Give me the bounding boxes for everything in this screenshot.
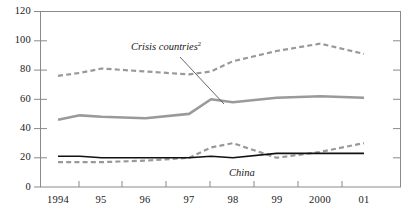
- series-line-1: [58, 96, 364, 119]
- x-axis-label-99: 99: [255, 194, 299, 205]
- series-line-0: [58, 44, 364, 76]
- y-axis-label-120: 120: [0, 5, 31, 16]
- y-axis-ticks-right: [393, 41, 401, 158]
- x-axis-label-96: 96: [123, 194, 167, 205]
- y-axis-label-0: 0: [0, 181, 31, 192]
- y-axis-label-100: 100: [0, 34, 31, 45]
- chart-figure: 120 100 80 60 40 20 0 1994 95 96 97 98 9…: [0, 0, 409, 216]
- x-axis-ticks: [79, 181, 342, 187]
- x-axis-label-1994: 1994: [36, 194, 80, 205]
- x-axis-label-01: 01: [342, 194, 386, 205]
- crisis-countries-annotation: Crisis countries2: [131, 41, 201, 52]
- x-axis-label-97: 97: [167, 194, 211, 205]
- crisis-countries-annotation-text: Crisis countries: [131, 41, 198, 52]
- china-annotation: China: [229, 167, 255, 178]
- y-axis-label-60: 60: [0, 93, 31, 104]
- series-line-3: [58, 153, 364, 157]
- line-chart-canvas: [0, 0, 409, 216]
- y-axis-label-80: 80: [0, 63, 31, 74]
- x-axis-label-2000: 2000: [298, 194, 342, 205]
- crisis-countries-leader-line: [180, 57, 224, 104]
- y-axis-label-40: 40: [0, 122, 31, 133]
- y-axis-label-20: 20: [0, 151, 31, 162]
- data-series-layer: [58, 44, 364, 162]
- x-axis-label-95: 95: [79, 194, 123, 205]
- x-axis-label-98: 98: [211, 194, 255, 205]
- crisis-countries-footnote-marker: 2: [198, 40, 201, 47]
